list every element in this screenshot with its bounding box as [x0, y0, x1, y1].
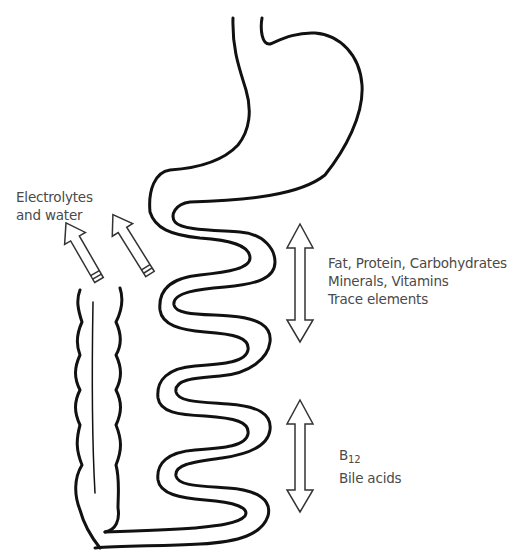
- colon-outline-right: [105, 288, 122, 532]
- small-intestine-outline: [95, 18, 362, 548]
- gi-absorption-diagram: Electrolytes and water Fat, Protein, Car…: [0, 0, 524, 557]
- and-water-text: and water: [16, 206, 93, 224]
- upper-double-arrow-icon: [287, 224, 313, 342]
- colon-absorption-label: Electrolytes and water: [16, 188, 93, 224]
- trace-elements-text: Trace elements: [328, 290, 507, 308]
- lower-absorption-label: B12 Bile acids: [339, 446, 401, 487]
- colon-outline-left: [76, 290, 101, 548]
- colon-inner-line: [92, 302, 95, 493]
- minerals-vitamins-text: Minerals, Vitamins: [328, 272, 507, 290]
- macronutrients-text: Fat, Protein, Carbohydrates: [328, 254, 507, 272]
- colon-arrow-left-icon: [56, 217, 110, 286]
- b12-text: B12: [339, 446, 401, 469]
- bile-acids-text: Bile acids: [339, 469, 401, 487]
- lower-double-arrow-icon: [287, 400, 313, 512]
- electrolytes-text: Electrolytes: [16, 188, 93, 206]
- stomach-outline: [105, 18, 250, 532]
- upper-absorption-label: Fat, Protein, Carbohydrates Minerals, Vi…: [328, 254, 507, 308]
